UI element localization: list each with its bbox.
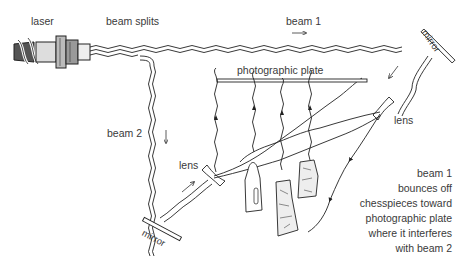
caption-line: where it interferes bbox=[360, 226, 452, 241]
caption-line: beam 1 bbox=[360, 166, 452, 181]
photographic-plate bbox=[217, 79, 367, 82]
arrowheads bbox=[214, 105, 312, 120]
laser-device-icon bbox=[14, 36, 90, 68]
concave-lens-icon bbox=[202, 165, 225, 186]
concave-lens-icon bbox=[373, 97, 394, 120]
reflected-beams bbox=[215, 68, 312, 172]
caption-line: bounces off bbox=[360, 181, 452, 196]
chess-piece-icon bbox=[276, 180, 298, 236]
caption-line: chesspieces toward bbox=[360, 196, 452, 211]
laser-label: laser bbox=[31, 16, 54, 27]
holography-diagram: laser beam splits beam 1 beam 2 photogra… bbox=[0, 0, 463, 256]
lens-right-label: lens bbox=[394, 115, 413, 126]
photographic-plate-label: photographic plate bbox=[237, 65, 323, 76]
beam-1-horizontal bbox=[90, 46, 402, 57]
beam-splits-label: beam splits bbox=[106, 16, 159, 27]
arrow-down-left-icon bbox=[389, 66, 398, 78]
beam-2-label: beam 2 bbox=[107, 128, 142, 139]
lens-left-label: lens bbox=[179, 160, 198, 171]
caption-line: with beam 2 bbox=[360, 241, 452, 256]
caption-line: photographic plate bbox=[360, 211, 452, 226]
chess-piece-icon bbox=[298, 160, 318, 198]
beam-2-to-lens bbox=[160, 180, 212, 222]
beam-1-to-lens bbox=[398, 56, 432, 116]
arrow-up-right-icon bbox=[182, 182, 194, 192]
beam-1-label: beam 1 bbox=[286, 16, 321, 27]
chess-piece-icon bbox=[245, 163, 262, 213]
beam-2-diverging bbox=[214, 78, 380, 178]
caption: beam 1 bounces off chesspieces toward ph… bbox=[360, 166, 452, 256]
